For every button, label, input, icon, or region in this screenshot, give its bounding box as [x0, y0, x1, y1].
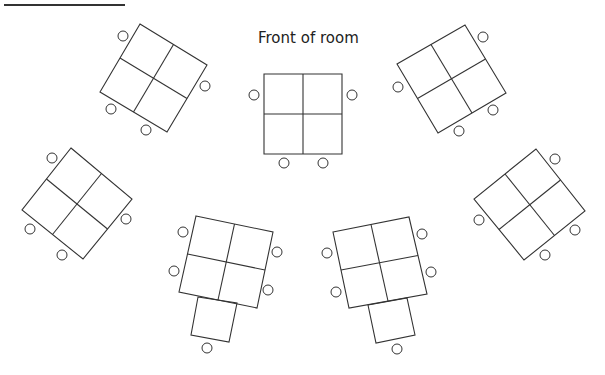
seat-circle [141, 125, 151, 135]
seat-circle [570, 225, 580, 235]
desk-divider [431, 45, 472, 114]
seat-circle [478, 32, 488, 42]
seat-circle [47, 153, 57, 163]
top-left-table [100, 24, 210, 135]
seat-circle [392, 344, 402, 354]
classroom-seating-diagram: Front of room [0, 0, 605, 375]
seat-circle [263, 285, 273, 295]
seat-circle [426, 267, 436, 277]
seat-circle [57, 250, 67, 260]
bottom-right-table [322, 217, 436, 354]
seat-circle [200, 81, 210, 91]
bottom-left-table [169, 216, 282, 353]
seat-circle [331, 287, 341, 297]
seat-circle [178, 227, 188, 237]
seat-circle [279, 158, 289, 168]
seat-circle [540, 250, 550, 260]
seat-circle [322, 248, 332, 258]
seat-circle [550, 154, 560, 164]
seat-circle [121, 214, 131, 224]
desk-divider [120, 58, 187, 99]
seating-plan-canvas [0, 0, 605, 375]
desk-divider [188, 254, 266, 270]
desk-divider [47, 179, 108, 229]
seat-circle [118, 31, 128, 41]
center-front-table [249, 74, 357, 168]
middle-right-table [474, 149, 585, 260]
top-right-table [393, 25, 506, 136]
seat-circle [488, 105, 498, 115]
extra-desk [368, 298, 415, 343]
seat-circle [106, 104, 116, 114]
desk-divider [341, 256, 418, 271]
middle-left-table [22, 148, 132, 260]
seat-circle [25, 224, 35, 234]
seat-circle [417, 229, 427, 239]
seat-circle [393, 82, 403, 92]
seat-circle [347, 90, 357, 100]
extra-desk [191, 297, 237, 342]
seat-circle [249, 90, 259, 100]
seat-circle [318, 158, 328, 168]
seat-circle [272, 247, 282, 257]
desk-divider [505, 174, 555, 236]
seat-circle [454, 126, 464, 136]
seat-circle [474, 215, 484, 225]
seat-circle [169, 266, 179, 276]
seat-circle [202, 343, 212, 353]
